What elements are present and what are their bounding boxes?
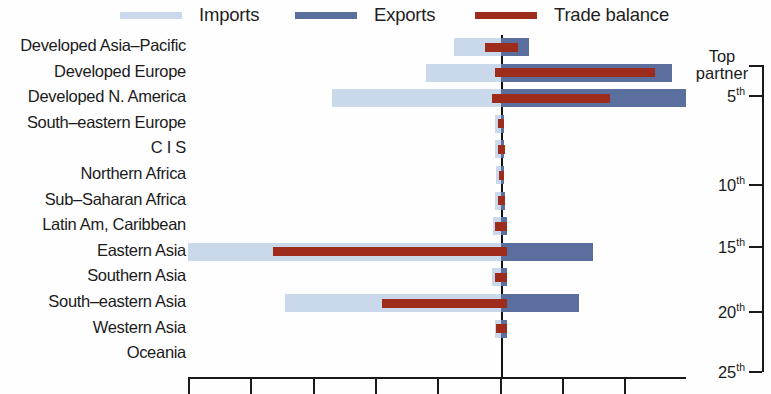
category-label: Southern Asia — [0, 266, 186, 285]
rank-tick — [749, 246, 762, 248]
x-axis-tick — [437, 377, 439, 394]
bar-exports — [501, 294, 579, 312]
x-axis-tick — [562, 377, 564, 394]
category-label: South–eastern Europe — [0, 113, 186, 132]
legend-swatch-imports — [120, 12, 182, 19]
bar-trade-balance — [499, 171, 503, 180]
x-axis-tick — [250, 377, 252, 394]
category-label: C I S — [0, 138, 186, 157]
category-label: Eastern Asia — [0, 241, 186, 260]
bar-trade-balance — [498, 196, 505, 205]
bar-trade-balance — [485, 43, 517, 52]
rank-label: 25th — [690, 361, 745, 382]
rank-suffix: th — [736, 85, 745, 97]
rank-label: 10th — [690, 174, 745, 195]
bar-trade-balance — [498, 145, 505, 154]
category-label: Developed N. America — [0, 87, 186, 106]
rank-suffix: th — [736, 361, 745, 373]
x-axis-tick — [500, 377, 502, 394]
bar-trade-balance — [495, 273, 507, 282]
rank-number: 15 — [718, 238, 736, 256]
legend-swatch-exports — [295, 12, 357, 19]
rank-number: 5 — [727, 87, 736, 105]
bar-trade-balance — [492, 94, 611, 103]
rank-number: 20 — [718, 303, 736, 321]
bar-trade-balance — [495, 222, 507, 231]
legend-label-exports: Exports — [374, 4, 435, 26]
trade-bar-chart: ImportsExportsTrade balance Developed As… — [0, 0, 771, 394]
category-label: Developed Asia–Pacific — [0, 36, 186, 55]
rank-label: 5th — [690, 85, 745, 106]
legend-item-exports[interactable]: Exports — [295, 4, 435, 26]
rank-tick — [749, 95, 762, 97]
rank-label: 15th — [690, 236, 745, 257]
top-partner-tick — [749, 65, 762, 67]
legend-item-imports[interactable]: Imports — [120, 4, 259, 26]
category-label: Sub–Saharan Africa — [0, 190, 186, 209]
rank-tick — [749, 184, 762, 186]
chart-legend: ImportsExportsTrade balance — [0, 0, 771, 30]
category-label: Latin Am, Caribbean — [0, 215, 186, 234]
category-label: Western Asia — [0, 318, 186, 337]
rank-number: 25 — [718, 363, 736, 381]
legend-item-trade-balance[interactable]: Trade balance — [475, 4, 669, 26]
bar-imports — [332, 89, 501, 107]
bar-trade-balance — [498, 119, 504, 128]
x-axis-tick — [313, 377, 315, 394]
bar-trade-balance — [495, 68, 655, 77]
x-axis-tick — [375, 377, 377, 394]
x-axis-tick — [624, 377, 626, 394]
legend-label-trade-balance: Trade balance — [554, 4, 669, 26]
top-partner-caption: Toppartner — [688, 48, 756, 82]
legend-swatch-trade-balance — [475, 12, 537, 19]
category-label: Developed Europe — [0, 62, 186, 81]
rank-number: 10 — [718, 176, 736, 194]
rank-suffix: th — [736, 301, 745, 313]
top-partner-caption-line1: Top — [688, 48, 756, 65]
rank-tick — [749, 311, 762, 313]
top-partner-caption-line2: partner — [688, 65, 756, 82]
rank-suffix: th — [736, 236, 745, 248]
plot-area — [188, 35, 686, 375]
x-axis-tick — [188, 377, 190, 394]
bar-trade-balance — [496, 324, 506, 333]
rank-suffix: th — [736, 174, 745, 186]
bar-exports — [501, 243, 593, 261]
rank-label: 20th — [690, 301, 745, 322]
bar-trade-balance — [273, 247, 507, 256]
category-label: Oceania — [0, 343, 186, 362]
category-label: South–eastern Asia — [0, 292, 186, 311]
top-partner-axis-spine — [762, 65, 764, 372]
category-label: Northern Africa — [0, 164, 186, 183]
rank-tick — [749, 371, 762, 373]
bar-trade-balance — [382, 299, 507, 308]
legend-label-imports: Imports — [199, 4, 259, 26]
bar-imports — [426, 64, 501, 82]
